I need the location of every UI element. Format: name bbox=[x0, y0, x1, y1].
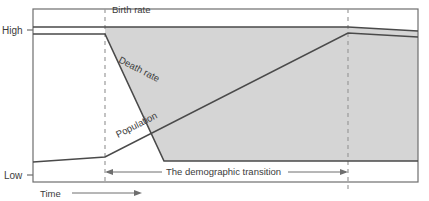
y-axis-label-high: High bbox=[2, 25, 23, 36]
transition-span-label: The demographic transition bbox=[166, 166, 281, 177]
birth-rate-label: Birth rate bbox=[112, 4, 151, 15]
x-axis-label-time: Time bbox=[40, 188, 61, 199]
demographic-transition-chart: High Low Birth rate Death rate Populatio… bbox=[0, 0, 429, 201]
y-axis-label-low: Low bbox=[4, 170, 23, 181]
demographic-transition-figure: High Low Birth rate Death rate Populatio… bbox=[0, 0, 429, 201]
